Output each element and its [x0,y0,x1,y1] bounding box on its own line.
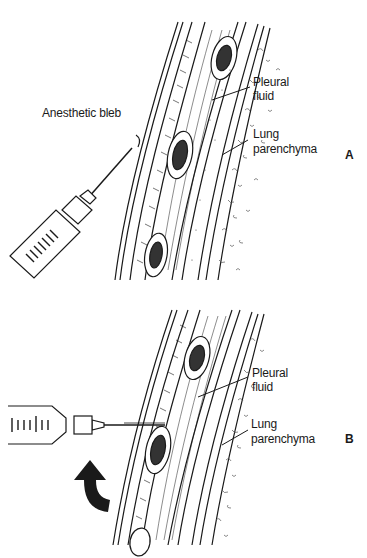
label-lung: Lung [251,417,277,431]
panel-a: Anesthetic bleb Pleural fluid Lung paren… [0,0,367,280]
curved-arrow-icon [74,460,110,512]
panel-letter-a: A [345,148,354,162]
panel-letter-b: B [345,432,354,446]
label-fluid: fluid [252,380,273,394]
chest-wall-illustration-b [0,280,367,558]
chest-wall-illustration-a [0,0,367,280]
panel-b: Pleural fluid Lung parenchyma B [0,280,367,558]
label-pleural: Pleural [252,366,288,380]
label-lung: Lung [253,127,279,141]
label-fluid: fluid [253,89,274,103]
label-anesthetic-bleb: Anesthetic bleb [42,106,121,120]
label-parenchyma: parenchyma [253,142,317,156]
syringe-icon [10,148,132,278]
label-pleural: Pleural [253,75,289,89]
label-parenchyma: parenchyma [251,432,315,446]
